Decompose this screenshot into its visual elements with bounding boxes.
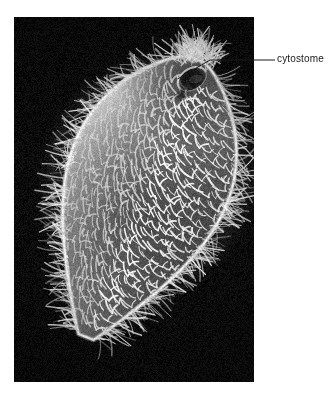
- figure-root: cytostome: [0, 0, 328, 404]
- sem-micrograph-image: [14, 17, 254, 382]
- micrograph-plate: [14, 17, 254, 382]
- annotation-label-cytostome: cytostome: [277, 53, 324, 65]
